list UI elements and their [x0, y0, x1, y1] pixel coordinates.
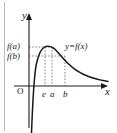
- x-tick-label-a: a: [50, 90, 55, 99]
- y-axis-label: y: [22, 10, 27, 21]
- y-tick-label-f-of-b: f(b): [7, 52, 20, 61]
- origin-label: O: [17, 87, 24, 96]
- x-tick-label-b: b: [63, 90, 68, 99]
- y-tick-label-f-of-a: f(a): [7, 42, 20, 51]
- figure-container: y x O f(a) f(b) e a b y=f(x): [0, 0, 117, 133]
- plot-canvas: [0, 0, 117, 133]
- x-tick-label-e: e: [42, 90, 46, 99]
- curve-label: y=f(x): [65, 42, 88, 51]
- x-axis-label: x: [105, 86, 110, 97]
